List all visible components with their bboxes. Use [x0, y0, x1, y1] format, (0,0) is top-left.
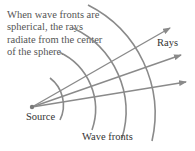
wave-fronts-label: Wave fronts: [82, 131, 133, 142]
rays-label: Rays: [157, 37, 178, 48]
wave-fronts: [50, 5, 155, 141]
source-label: Source: [26, 111, 55, 122]
source-point: [30, 105, 34, 109]
diagram-graphic: [0, 0, 195, 151]
wave-front-diagram: When wave fronts are spherical, the rays…: [0, 0, 195, 151]
wave-front-4: [88, 5, 155, 141]
